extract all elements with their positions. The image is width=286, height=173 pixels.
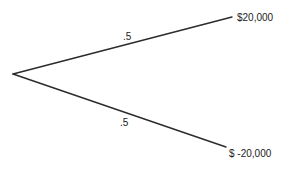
- upper-outcome-label: $20,000: [237, 12, 274, 23]
- lower-branch-line: [13, 74, 226, 147]
- lower-outcome-label: $ -20,000: [229, 148, 272, 159]
- upper-probability-label: .5: [123, 31, 132, 42]
- upper-branch-line: [13, 17, 232, 74]
- lower-probability-label: .5: [120, 117, 129, 128]
- decision-tree-diagram: .5 $20,000 .5 $ -20,000: [0, 0, 286, 173]
